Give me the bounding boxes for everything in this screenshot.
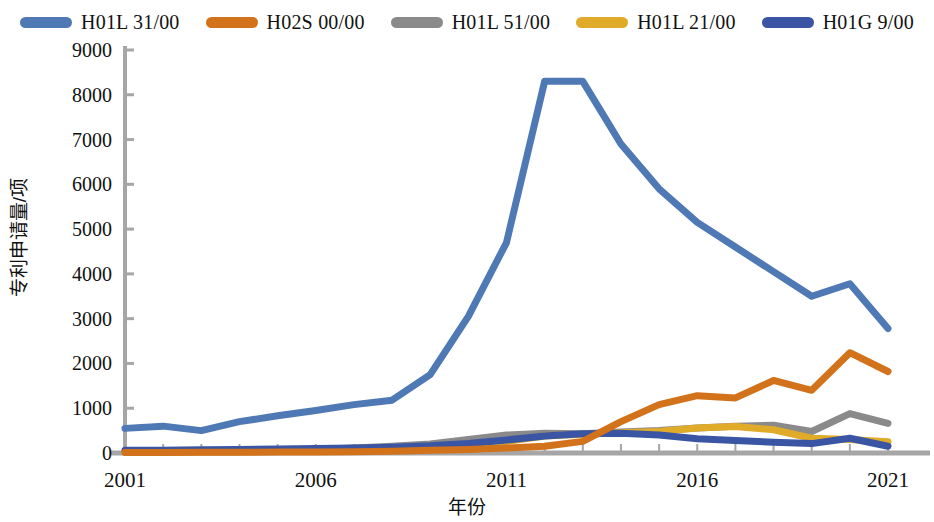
y-axis-tick-label: 1000	[50, 398, 112, 418]
y-axis-tick-label: 2000	[50, 353, 112, 373]
legend-color-swatch	[20, 17, 72, 28]
legend-item[interactable]: H02S 00/00	[206, 12, 365, 32]
x-axis-tick-label: 2016	[657, 470, 737, 491]
chart-legend: H01L 31/00H02S 00/00H01L 51/00H01L 21/00…	[0, 6, 934, 38]
legend-item[interactable]: H01G 9/00	[762, 12, 914, 32]
x-axis-tick-label: 2011	[467, 470, 547, 491]
legend-item-label: H02S 00/00	[267, 12, 365, 32]
x-axis-tick-label: 2021	[848, 470, 928, 491]
x-axis-title: 年份	[0, 498, 934, 517]
legend-item[interactable]: H01L 31/00	[20, 12, 179, 32]
legend-item[interactable]: H01L 51/00	[391, 12, 550, 32]
legend-color-swatch	[206, 17, 258, 28]
y-axis-tick-label: 8000	[50, 85, 112, 105]
patent-application-line-chart: H01L 31/00H02S 00/00H01L 51/00H01L 21/00…	[0, 0, 934, 522]
y-axis-tick-label: 7000	[50, 130, 112, 150]
legend-item-label: H01L 21/00	[637, 12, 735, 32]
x-axis-tick-label: 2006	[276, 470, 356, 491]
plot-svg	[0, 38, 934, 468]
legend-color-swatch	[576, 17, 628, 28]
plot-area: 专利申请量/项 01000200030004000500060007000800…	[0, 38, 934, 468]
legend-item-label: H01L 31/00	[81, 12, 179, 32]
y-axis-tick-label: 6000	[50, 174, 112, 194]
legend-color-swatch	[762, 17, 814, 28]
y-axis-tick-label: 5000	[50, 219, 112, 239]
legend-color-swatch	[391, 17, 443, 28]
x-axis-tick-label: 2001	[85, 470, 165, 491]
y-axis-tick-label: 3000	[50, 309, 112, 329]
legend-item-label: H01L 51/00	[452, 12, 550, 32]
legend-item-label: H01G 9/00	[823, 12, 914, 32]
y-axis-tick-label: 9000	[50, 40, 112, 60]
y-axis-tick-label: 0	[50, 443, 112, 463]
legend-item[interactable]: H01L 21/00	[576, 12, 735, 32]
y-axis-tick-label: 4000	[50, 264, 112, 284]
y-axis-title: 专利申请量/项	[10, 172, 29, 304]
